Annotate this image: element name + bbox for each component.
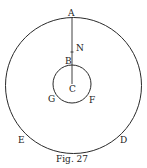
label-n: N (76, 43, 84, 53)
label-b: B (65, 56, 72, 66)
figure-diagram: A N B C G F E D Fig. 27 (0, 0, 147, 168)
label-a: A (67, 8, 75, 18)
label-d: D (120, 135, 127, 145)
label-c: C (69, 84, 76, 94)
label-f: F (89, 95, 95, 105)
label-g: G (48, 94, 55, 104)
figure-caption: Fig. 27 (56, 154, 88, 164)
label-e: E (18, 135, 25, 145)
